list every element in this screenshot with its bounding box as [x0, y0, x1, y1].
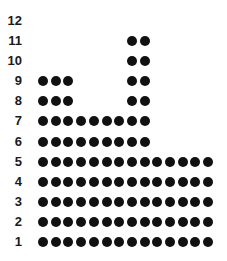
data-dot	[127, 217, 137, 227]
data-dot	[63, 237, 73, 247]
data-dot	[140, 137, 150, 147]
data-dot	[203, 197, 213, 207]
data-dot	[127, 76, 137, 86]
y-axis-label: 4	[0, 175, 22, 189]
data-dot	[51, 177, 61, 187]
data-dot	[114, 137, 124, 147]
data-dot	[203, 237, 213, 247]
y-axis-label: 2	[0, 215, 22, 229]
data-dot	[38, 177, 48, 187]
y-axis-label: 1	[0, 235, 22, 249]
data-dot	[38, 116, 48, 126]
data-dot	[51, 96, 61, 106]
data-dot	[38, 76, 48, 86]
data-dot	[190, 217, 200, 227]
data-dot	[102, 137, 112, 147]
data-dot	[178, 197, 188, 207]
data-dot	[190, 197, 200, 207]
data-dot	[63, 197, 73, 207]
y-axis-label: 6	[0, 135, 22, 149]
data-dot	[178, 157, 188, 167]
data-dot	[152, 197, 162, 207]
y-axis-label: 8	[0, 94, 22, 108]
data-dot	[38, 217, 48, 227]
data-dot	[127, 56, 137, 66]
data-dot	[140, 177, 150, 187]
data-dot	[63, 217, 73, 227]
data-dot	[190, 237, 200, 247]
data-dot	[63, 157, 73, 167]
data-dot	[165, 237, 175, 247]
data-dot	[127, 96, 137, 106]
y-axis-label: 3	[0, 195, 22, 209]
data-dot	[152, 217, 162, 227]
data-dot	[89, 177, 99, 187]
y-axis-label: 5	[0, 155, 22, 169]
data-dot	[38, 96, 48, 106]
data-dot	[203, 157, 213, 167]
data-dot	[102, 177, 112, 187]
data-dot	[38, 197, 48, 207]
dot-plot-chart: 123456789101112	[0, 0, 227, 261]
data-dot	[102, 116, 112, 126]
data-dot	[76, 197, 86, 207]
data-dot	[89, 217, 99, 227]
data-dot	[76, 157, 86, 167]
data-dot	[203, 217, 213, 227]
data-dot	[114, 157, 124, 167]
data-dot	[140, 157, 150, 167]
data-dot	[51, 217, 61, 227]
data-dot	[51, 237, 61, 247]
y-axis-label: 10	[0, 54, 22, 68]
data-dot	[51, 197, 61, 207]
data-dot	[63, 137, 73, 147]
data-dot	[127, 157, 137, 167]
data-dot	[140, 116, 150, 126]
data-dot	[51, 157, 61, 167]
data-dot	[140, 197, 150, 207]
data-dot	[114, 116, 124, 126]
data-dot	[127, 137, 137, 147]
data-dot	[89, 157, 99, 167]
data-dot	[89, 197, 99, 207]
data-dot	[178, 217, 188, 227]
y-axis-label: 12	[0, 14, 22, 28]
data-dot	[152, 237, 162, 247]
data-dot	[190, 157, 200, 167]
data-dot	[140, 237, 150, 247]
data-dot	[140, 217, 150, 227]
data-dot	[127, 36, 137, 46]
data-dot	[127, 237, 137, 247]
y-axis-label: 9	[0, 74, 22, 88]
data-dot	[38, 157, 48, 167]
data-dot	[89, 137, 99, 147]
data-dot	[165, 177, 175, 187]
data-dot	[127, 197, 137, 207]
data-dot	[38, 137, 48, 147]
data-dot	[114, 237, 124, 247]
data-dot	[89, 116, 99, 126]
data-dot	[76, 116, 86, 126]
data-dot	[114, 217, 124, 227]
data-dot	[51, 116, 61, 126]
data-dot	[178, 177, 188, 187]
data-dot	[102, 157, 112, 167]
data-dot	[140, 96, 150, 106]
data-dot	[76, 237, 86, 247]
data-dot	[178, 237, 188, 247]
data-dot	[140, 76, 150, 86]
data-dot	[140, 56, 150, 66]
data-dot	[102, 217, 112, 227]
data-dot	[51, 76, 61, 86]
data-dot	[152, 157, 162, 167]
data-dot	[63, 96, 73, 106]
data-dot	[89, 237, 99, 247]
data-dot	[76, 217, 86, 227]
data-dot	[63, 116, 73, 126]
data-dot	[76, 137, 86, 147]
data-dot	[63, 177, 73, 187]
data-dot	[114, 177, 124, 187]
data-dot	[127, 177, 137, 187]
data-dot	[51, 137, 61, 147]
data-dot	[140, 36, 150, 46]
